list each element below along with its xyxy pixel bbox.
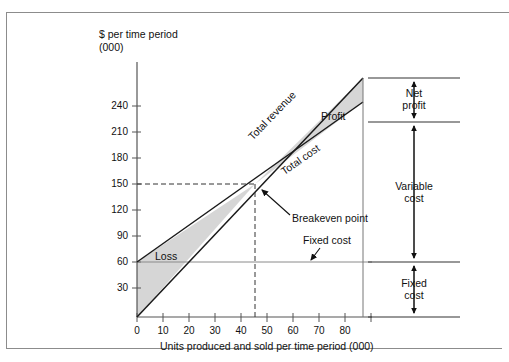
y-tick-label-90: 90 bbox=[102, 230, 128, 242]
bracket-variable-cost-label-line1: Variable bbox=[368, 180, 460, 192]
bracket-variable-cost-label-line2: cost bbox=[368, 192, 460, 204]
fixed-cost-callout-label: Fixed cost bbox=[303, 234, 351, 246]
y-tick-label-60: 60 bbox=[102, 256, 128, 268]
profit-region bbox=[255, 78, 363, 184]
profit-label: Profit bbox=[321, 110, 346, 122]
x-tick-label-20: 20 bbox=[176, 325, 202, 337]
bracket-fixed-cost-label-line2: cost bbox=[368, 289, 460, 301]
x-tick-label-60: 60 bbox=[280, 325, 306, 337]
x-tick-label-40: 40 bbox=[228, 325, 254, 337]
bracket-net-profit-label-line2: profit bbox=[368, 99, 460, 111]
breakeven-point-label: Breakeven point bbox=[292, 212, 368, 224]
loss-label: Loss bbox=[155, 250, 177, 262]
x-tick-label-0: 0 bbox=[124, 325, 150, 337]
x-tick-label-30: 30 bbox=[202, 325, 228, 337]
x-tick-label-10: 10 bbox=[150, 325, 176, 337]
y-tick-label-240: 240 bbox=[102, 100, 128, 112]
y-tick-label-150: 150 bbox=[102, 178, 128, 190]
y-tick-label-210: 210 bbox=[102, 126, 128, 138]
bracket-net-profit-label-line1: Net bbox=[368, 87, 460, 99]
x-tick-label-50: 50 bbox=[254, 325, 280, 337]
y-axis-title-line1: $ per time period bbox=[99, 28, 178, 40]
breakeven-callout-arrow bbox=[262, 190, 290, 215]
y-tick-label-30: 30 bbox=[102, 282, 128, 294]
x-tick-label-70: 70 bbox=[306, 325, 332, 337]
y-tick-label-180: 180 bbox=[102, 152, 128, 164]
fixed-cost-callout-arrow bbox=[311, 248, 320, 260]
bracket-fixed-cost-label-line1: Fixed bbox=[368, 277, 460, 289]
x-axis-title: Units produced and sold per time period … bbox=[160, 340, 374, 352]
x-tick-label-80: 80 bbox=[332, 325, 358, 337]
y-tick-label-120: 120 bbox=[102, 204, 128, 216]
figure-page: $ per time period (000) 240 210 180 150 … bbox=[0, 0, 509, 362]
y-axis-title-line2: (000) bbox=[99, 41, 124, 53]
